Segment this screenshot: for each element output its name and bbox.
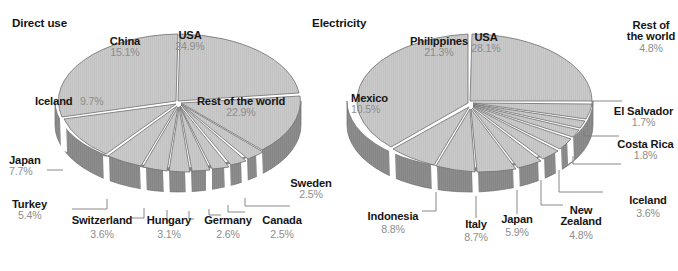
slice-pct-new-zealand: 4.8% <box>547 230 615 241</box>
slice-label-canada: Canada 2.5% <box>254 215 310 240</box>
slice-label-usa-electricity: USA 28.1% <box>451 32 521 54</box>
slice-name-iceland: Iceland <box>35 95 73 107</box>
slice-name-iceland-electricity: Iceland <box>618 195 678 206</box>
slice-pct-mexico: 10.5% <box>351 104 388 115</box>
slice-label-rest-of-the-world-electricity: Rest of the world 4.8% <box>624 20 678 54</box>
slice-label-hungary: Hungary 3.1% <box>138 215 200 240</box>
slice-label-japan: Japan 7.7% <box>9 155 41 177</box>
slice-label-usa: USA 24.9% <box>155 30 225 52</box>
electricity-chart-panel: Electricity <box>339 0 678 271</box>
slice-pct-turkey: 5.4% <box>18 210 47 221</box>
slice-pct-iceland-electricity: 3.6% <box>618 208 678 219</box>
slice-label-china: China 15.1% <box>90 36 160 58</box>
slice-name-hungary: Hungary <box>138 215 200 226</box>
slice-label-turkey: Turkey 5.4% <box>12 199 47 221</box>
slice-label-indonesia: Indonesia 8.8% <box>355 211 431 235</box>
slice-pct-sweden: 2.5% <box>284 189 338 200</box>
slice-label-costa-rica: Costa Rica 1.8% <box>613 139 678 161</box>
slice-name-new-zealand-line2: Zealand <box>547 216 615 227</box>
slice-pct-indonesia: 8.8% <box>355 224 431 235</box>
slice-name-indonesia: Indonesia <box>355 211 431 222</box>
slice-label-sweden: Sweden 2.5% <box>284 178 338 200</box>
slice-label-new-zealand: New Zealand 4.8% <box>547 205 615 241</box>
slice-name-canada: Canada <box>254 215 310 226</box>
slice-label-iceland-electricity: Iceland 3.6% <box>618 195 678 219</box>
slice-pct-japan: 7.7% <box>9 166 41 177</box>
slice-pct-costa-rica: 1.8% <box>613 150 678 161</box>
slice-pct-canada: 2.5% <box>254 229 310 240</box>
slice-pct-rest-of-the-world-electricity: 4.8% <box>624 43 678 54</box>
slice-pct-hungary: 3.1% <box>138 229 200 240</box>
slice-label-mexico: Mexico 10.5% <box>351 93 388 115</box>
slice-pct-germany: 2.6% <box>197 229 259 240</box>
slice-pct-rest-of-the-world: 22.9% <box>186 107 296 118</box>
slice-label-switzerland: Switzerland 3.6% <box>62 215 142 240</box>
slice-pct-el-salvador: 1.7% <box>609 117 678 128</box>
slice-label-iceland: Iceland 9.7% <box>35 92 104 108</box>
slice-label-rest-of-the-world: Rest of the world 22.9% <box>186 96 296 118</box>
slice-pct-usa: 24.9% <box>155 41 225 52</box>
slice-label-germany: Germany 2.6% <box>197 215 259 240</box>
slice-pct-switzerland: 3.6% <box>62 229 142 240</box>
slice-label-italy: Italy 8.7% <box>449 219 503 243</box>
slice-label-el-salvador: El Salvador 1.7% <box>609 106 678 128</box>
slice-name-italy: Italy <box>449 219 503 230</box>
slice-pct-italy: 8.7% <box>449 232 503 243</box>
slice-name-switzerland: Switzerland <box>62 215 142 226</box>
slice-pct-china: 15.1% <box>90 47 160 58</box>
slice-pct-usa-electricity: 28.1% <box>451 43 521 54</box>
geothermal-pie-charts-figure: Direct use <box>0 0 678 271</box>
slice-name-germany: Germany <box>197 215 259 226</box>
direct-use-chart-panel: Direct use <box>0 0 339 271</box>
slice-pct-iceland: 9.7% <box>80 95 104 107</box>
